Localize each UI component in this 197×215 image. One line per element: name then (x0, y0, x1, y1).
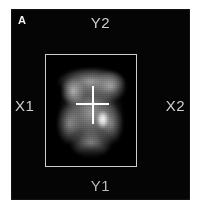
gamma-camera-display-panel: A Y2 Y1 X1 X2 (11, 9, 190, 200)
region-of-interest-box[interactable] (45, 54, 137, 167)
axis-label-y2: Y2 (11, 14, 190, 31)
axis-label-x1: X1 (15, 96, 34, 113)
axis-label-x2: X2 (166, 96, 185, 113)
axis-label-y1: Y1 (11, 177, 190, 194)
scintigram-inferior-notch (73, 144, 109, 167)
figure-panel-a: A Y2 Y1 X1 X2 (0, 0, 197, 215)
